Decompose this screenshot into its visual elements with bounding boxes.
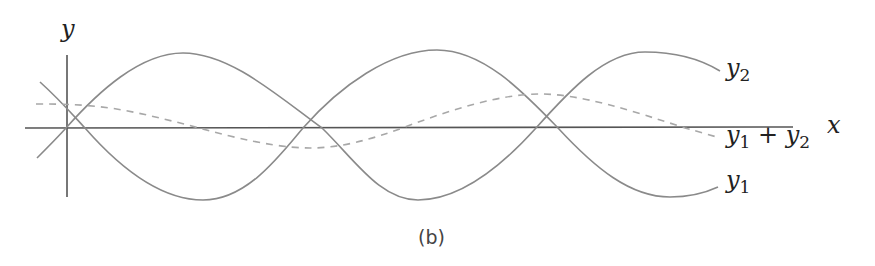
figure-caption: (b) [418, 228, 445, 247]
label-y1-sub: 1 [740, 177, 751, 197]
label-sum-sub1: 1 [740, 132, 751, 152]
y-axis-label: y [61, 17, 75, 41]
label-y1-base: y [726, 166, 740, 194]
curve-y1 [40, 50, 718, 200]
label-sum-base2: y [786, 121, 800, 149]
label-y1: y1 [726, 168, 750, 196]
curve-y1-plus-y2 [36, 94, 720, 148]
label-y2-sub: 2 [740, 65, 751, 85]
x-axis [25, 127, 793, 128]
label-y2: y2 [726, 56, 750, 84]
label-y1-plus-y2: y1 + y2 [726, 123, 810, 151]
label-sum-sub2: 2 [799, 132, 810, 152]
label-sum-base1: y [726, 121, 740, 149]
wave-superposition-figure: y x y2 y1 + y2 y1 (b) [0, 0, 875, 266]
label-y2-base: y [726, 54, 740, 82]
x-axis-label-text: x [827, 111, 841, 139]
x-axis-label: x [827, 113, 841, 137]
y-axis-label-text: y [61, 15, 75, 43]
label-sum-operator: + [750, 121, 785, 149]
